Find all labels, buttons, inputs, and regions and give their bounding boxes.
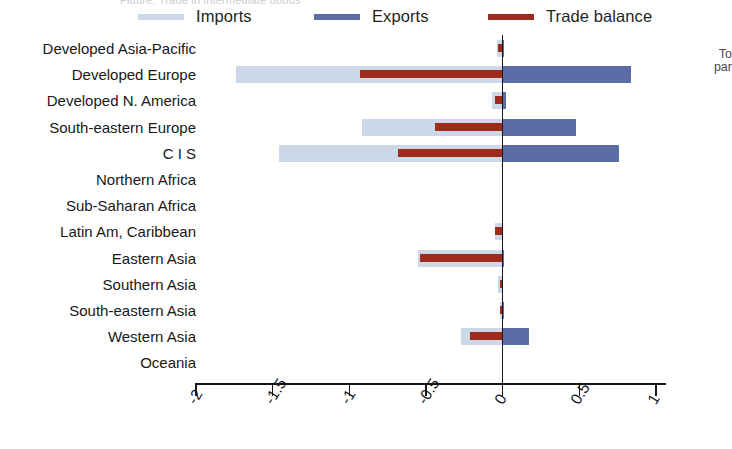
chart-row [196, 167, 656, 193]
bar-exports [503, 145, 620, 162]
category-label: Developed Europe [72, 62, 196, 88]
bar-exports [503, 66, 632, 83]
category-label: Developed Asia-Pacific [43, 36, 196, 62]
category-label: Sub-Saharan Africa [66, 193, 196, 219]
chart-row [196, 88, 656, 114]
bar-trade-balance [470, 332, 502, 340]
chart-row [196, 272, 656, 298]
bar-exports [503, 119, 577, 136]
clipped-title: Figure: Trade in intermediate goods [120, 0, 540, 4]
category-label: Latin Am, Caribbean [60, 219, 196, 245]
chart-row [196, 219, 656, 245]
category-label: C I S [163, 141, 196, 167]
plot-area: Developed Asia-PacificDeveloped EuropeDe… [0, 36, 711, 386]
category-label: Oceania [140, 350, 196, 376]
legend-item-trade-balance: Trade balance [488, 7, 652, 31]
x-axis-tick-label: 1 [644, 391, 664, 408]
legend-item-exports: Exports [314, 7, 429, 31]
category-label: Western Asia [108, 324, 196, 350]
legend-swatch-exports [314, 14, 360, 20]
category-label: Northern Africa [96, 167, 196, 193]
x-axis-tick-label: 0 [491, 391, 511, 408]
chart-legend: Imports Exports Trade balance [0, 7, 711, 31]
bar-trade-balance [435, 123, 502, 131]
category-label: South-eastern Asia [69, 298, 196, 324]
chart-row [196, 36, 656, 62]
legend-item-imports: Imports [138, 7, 252, 31]
category-label: Developed N. America [47, 88, 196, 114]
chart-row [196, 115, 656, 141]
bar-trade-balance [360, 70, 503, 78]
x-axis-tick-label: -2 [184, 386, 207, 407]
x-axis-tick-label: -1 [337, 386, 360, 407]
category-label: South-eastern Europe [49, 115, 196, 141]
category-label: Eastern Asia [112, 246, 196, 272]
bar-trade-balance [420, 254, 503, 262]
chart-row [196, 324, 656, 350]
category-axis-labels: Developed Asia-PacificDeveloped EuropeDe… [0, 36, 196, 384]
bar-trade-balance [398, 149, 502, 157]
legend-label-exports: Exports [372, 7, 429, 26]
bar-exports [503, 328, 529, 345]
legend-swatch-imports [138, 14, 184, 20]
legend-label-trade-balance: Trade balance [546, 7, 652, 26]
category-label: Southern Asia [103, 272, 196, 298]
chart-row [196, 298, 656, 324]
zero-reference-line [502, 35, 504, 387]
chart-row [196, 141, 656, 167]
chart-row [196, 350, 656, 376]
legend-swatch-trade-balance [488, 14, 534, 20]
chart-row [196, 246, 656, 272]
bars-panel [196, 36, 656, 384]
legend-label-imports: Imports [196, 7, 252, 26]
chart-row [196, 62, 656, 88]
chart-row [196, 193, 656, 219]
